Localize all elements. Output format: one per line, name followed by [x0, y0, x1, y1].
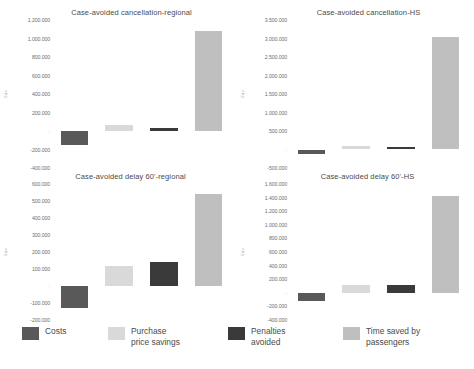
- bar: [150, 262, 178, 286]
- y-axis-tick-label: 400.000: [32, 91, 50, 97]
- chart-title: Case-avoided delay 60'-regional: [0, 172, 237, 181]
- legend-item-costs: Costs: [22, 326, 122, 340]
- legend-swatch-icon: [228, 327, 245, 340]
- y-axis-tick-label: 400.000: [32, 215, 50, 221]
- y-axis-label: Euro: [241, 90, 245, 97]
- y-axis-tick-label: 2.500.000: [265, 54, 287, 60]
- y-axis-tick-label: -: [48, 128, 50, 134]
- plot-area: Euro 1.600.0001.400.0001.200.0001.000.00…: [237, 184, 472, 320]
- chart-legend: Costs Purchase price savings Penalties a…: [0, 322, 474, 369]
- y-axis-label: Euro: [4, 90, 8, 97]
- zero-line: [289, 150, 468, 151]
- bar: [432, 196, 460, 293]
- y-axis-ticks: 1.200.0001.000.000800.000600.000400.0002…: [8, 20, 50, 168]
- legend-swatch-icon: [343, 327, 360, 340]
- y-axis-tick-label: 1.000.000: [265, 110, 287, 116]
- legend-item-label: Costs: [45, 326, 66, 337]
- legend-item-penalties-avoided: Penalties avoided: [228, 326, 328, 348]
- y-axis-label: Euro: [241, 248, 245, 255]
- bar: [61, 286, 89, 308]
- y-axis-tick-label: 2.000.000: [265, 73, 287, 79]
- bars-container: [52, 184, 231, 320]
- chart-figure: Case-avoided cancellation-regional Euro …: [0, 0, 474, 320]
- y-axis-tick-label: 400.000: [269, 263, 287, 269]
- bar: [105, 266, 133, 286]
- y-axis-tick-label: 600.000: [32, 181, 50, 187]
- legend-item-time-saved-by-passengers: Time saved by passengers: [343, 326, 471, 348]
- legend-item-label: Time saved by passengers: [366, 326, 462, 348]
- chart-title: Case-avoided cancellation-regional: [0, 8, 237, 17]
- bar: [195, 31, 223, 131]
- y-axis-tick-label: 3.500.000: [265, 17, 287, 23]
- bar: [61, 131, 89, 145]
- y-axis-ticks: 1.600.0001.400.0001.200.0001.000.000800.…: [245, 184, 287, 320]
- y-axis-tick-label: -: [48, 283, 50, 289]
- bars-container: [52, 20, 231, 168]
- y-axis-tick-label: 500.000: [32, 198, 50, 204]
- y-axis-tick-label: 1.500.000: [265, 91, 287, 97]
- legend-swatch-icon: [108, 327, 125, 340]
- chart-panel-delay-60-regional: Case-avoided delay 60'-regional Euro 600…: [0, 172, 237, 320]
- y-axis-tick-label: 1.000.000: [28, 36, 50, 42]
- zero-line: [52, 131, 231, 132]
- y-axis-tick-label: 300.000: [32, 232, 50, 238]
- y-axis-tick-label: 3.000.000: [265, 36, 287, 42]
- y-axis-tick-label: 1.200.000: [265, 208, 287, 214]
- bar: [387, 285, 415, 293]
- y-axis-tick-label: 1.000.000: [265, 222, 287, 228]
- bar: [298, 293, 326, 301]
- plot-area: Euro 3.500.0003.000.0002.500.0002.000.00…: [237, 20, 472, 168]
- y-axis-tick-label: -500.000: [267, 165, 287, 171]
- y-axis-tick-label: 1.600.000: [265, 181, 287, 187]
- y-axis-tick-label: -: [285, 147, 287, 153]
- legend-item-label: Purchase price savings: [131, 326, 180, 348]
- y-axis-tick-label: 1.200.000: [28, 17, 50, 23]
- y-axis-tick-label: 200.000: [32, 249, 50, 255]
- chart-panel-delay-60-hs: Case-avoided delay 60'-HS Euro 1.600.000…: [237, 172, 474, 320]
- zero-line: [52, 286, 231, 287]
- bar: [342, 285, 370, 292]
- chart-panel-cancellation-regional: Case-avoided cancellation-regional Euro …: [0, 8, 237, 168]
- chart-panel-cancellation-hs: Case-avoided cancellation-HS Euro 3.500.…: [237, 8, 474, 168]
- y-axis-label: Euro: [4, 248, 8, 255]
- bars-container: [289, 20, 468, 168]
- y-axis-tick-label: -200.000: [267, 303, 287, 309]
- y-axis-tick-label: 800.000: [32, 54, 50, 60]
- legend-item-purchase-price-savings: Purchase price savings: [108, 326, 218, 348]
- y-axis-tick-label: 800.000: [269, 235, 287, 241]
- bars-container: [289, 184, 468, 320]
- bar: [432, 37, 460, 150]
- chart-title: Case-avoided cancellation-HS: [237, 8, 474, 17]
- y-axis-ticks: 3.500.0003.000.0002.500.0002.000.0001.50…: [245, 20, 287, 168]
- y-axis-tick-label: 200.000: [269, 276, 287, 282]
- zero-line: [289, 293, 468, 294]
- legend-item-label: Penalties avoided: [251, 326, 285, 348]
- y-axis-tick-label: 1.400.000: [265, 195, 287, 201]
- legend-swatch-icon: [22, 327, 39, 340]
- y-axis-tick-label: 100.000: [32, 266, 50, 272]
- plot-area: Euro 1.200.0001.000.000800.000600.000400…: [0, 20, 235, 168]
- y-axis-tick-label: -200.000: [30, 147, 50, 153]
- plot-area: Euro 600.000500.000400.000300.000200.000…: [0, 184, 235, 320]
- y-axis-tick-label: 600.000: [32, 73, 50, 79]
- y-axis-tick-label: 500.000: [269, 128, 287, 134]
- y-axis-tick-label: 600.000: [269, 249, 287, 255]
- y-axis-tick-label: -: [285, 290, 287, 296]
- y-axis-tick-label: -400.000: [30, 165, 50, 171]
- bar: [195, 194, 223, 286]
- y-axis-tick-label: -100.000: [30, 300, 50, 306]
- y-axis-ticks: 600.000500.000400.000300.000200.000100.0…: [8, 184, 50, 320]
- chart-title: Case-avoided delay 60'-HS: [237, 172, 474, 181]
- y-axis-tick-label: 200.000: [32, 110, 50, 116]
